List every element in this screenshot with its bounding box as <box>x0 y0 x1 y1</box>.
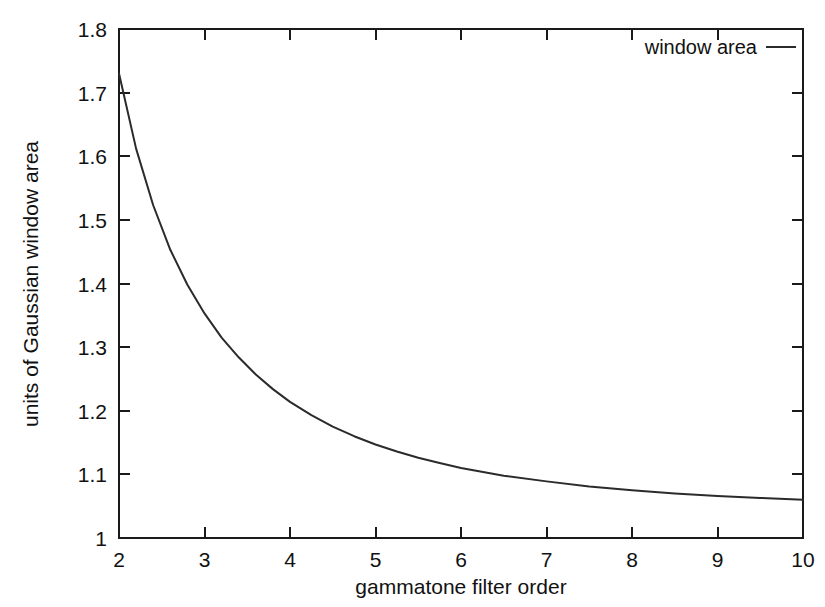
line-chart: 1.8 1.7 1.6 1.5 1.4 1.3 1.2 1.1 1 2 3 4 … <box>0 0 825 607</box>
x-axis-title: gammatone filter order <box>355 575 566 598</box>
y-tick-label: 1.8 <box>78 18 107 41</box>
y-tick-label: 1.7 <box>78 82 107 105</box>
x-tick-label: 5 <box>370 548 382 571</box>
x-tick-label: 8 <box>626 548 638 571</box>
y-tick-labels: 1.8 1.7 1.6 1.5 1.4 1.3 1.2 1.1 1 <box>78 18 108 550</box>
x-tick-label: 10 <box>791 548 814 571</box>
x-tick-label: 2 <box>113 548 125 571</box>
y-tick-label: 1.2 <box>78 400 107 423</box>
chart-figure: 1.8 1.7 1.6 1.5 1.4 1.3 1.2 1.1 1 2 3 4 … <box>0 0 825 607</box>
x-tick-label: 6 <box>455 548 467 571</box>
y-tick-label: 1.5 <box>78 209 107 232</box>
y-tick-label: 1.4 <box>78 273 108 296</box>
legend-entry-label: window area <box>644 36 758 58</box>
y-axis-title: units of Gaussian window area <box>19 141 42 427</box>
y-tick-label: 1.6 <box>78 145 107 168</box>
x-tick-label: 4 <box>284 548 296 571</box>
y-tick-label: 1.1 <box>78 463 107 486</box>
y-tick-label: 1 <box>95 527 107 550</box>
x-tick-label: 9 <box>712 548 724 571</box>
x-tick-label: 7 <box>541 548 553 571</box>
x-tick-label: 3 <box>199 548 211 571</box>
y-tick-label: 1.3 <box>78 336 107 359</box>
